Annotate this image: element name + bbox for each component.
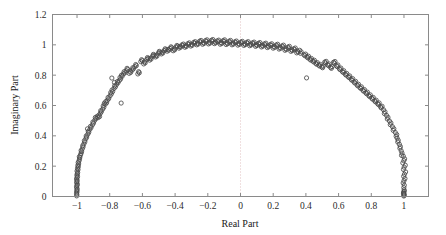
plot-canvas: −1−0.8−0.6−0.4−0.200.20.40.60.8100.20.40… [0,0,446,235]
x-tick-label: −1 [72,201,82,211]
data-point [304,76,308,80]
x-tick-label: 0.6 [333,201,345,211]
data-point-group [74,37,407,198]
x-tick-label: 0.2 [267,201,279,211]
scatter-plot-figure: −1−0.8−0.6−0.4−0.200.20.40.60.8100.20.40… [0,0,446,235]
data-point [119,101,123,105]
y-tick-label: 0.8 [35,71,47,81]
x-tick-label: −0.2 [199,201,216,211]
x-tick-label: −0.4 [166,201,183,211]
x-tick-label: 0 [238,201,243,211]
data-point [110,76,114,80]
y-tick-label: 0 [42,192,47,202]
x-tick-label: 0.8 [365,201,377,211]
x-tick-label: 0.4 [300,201,312,211]
x-axis-title: Real Part [222,218,259,229]
x-tick-label: −0.6 [134,201,151,211]
y-tick-label: 0.6 [35,101,47,111]
y-axis-title: Imaginary Part [9,75,20,135]
y-tick-label: 0.2 [35,162,47,172]
x-tick-label: 1 [402,201,407,211]
y-tick-label: 1 [42,40,47,50]
y-tick-label: 0.4 [35,131,47,141]
y-tick-label: 1.2 [35,10,47,20]
x-tick-label: −0.8 [101,201,118,211]
